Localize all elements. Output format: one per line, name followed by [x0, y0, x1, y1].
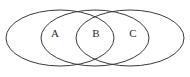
region-label-b: B [92, 27, 99, 39]
venn-diagram-canvas: A B C [0, 0, 190, 77]
venn-diagram-figure: A B C [0, 0, 190, 77]
region-label-c: C [129, 27, 136, 39]
region-label-a: A [51, 27, 59, 39]
